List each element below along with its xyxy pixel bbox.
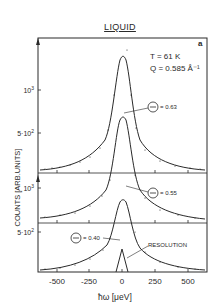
- y-axis-arrow-mid: [36, 175, 40, 182]
- x-tick-label--500: -500: [42, 277, 72, 286]
- curve-0.55: [40, 117, 205, 219]
- y-axis-title: COUNTS [ARB.UNITS]: [13, 133, 22, 243]
- y-axis-arrow-top: [36, 38, 40, 45]
- curve-0.40: [40, 200, 205, 270]
- leader-top: [124, 108, 148, 113]
- annotation-resolution: RESOLUTION: [148, 242, 187, 248]
- chart-canvas: [0, 0, 214, 307]
- leader-mid: [126, 186, 148, 192]
- panel-label: a: [198, 39, 202, 48]
- annotation-0.55: = 0.55: [160, 190, 177, 196]
- resolution-function: [116, 249, 128, 272]
- plot-frame: [38, 38, 207, 272]
- chart-title: LIQUID: [0, 22, 214, 32]
- annotation-0.63: = 0.63: [160, 104, 177, 110]
- momentum-label: Q = 0.585 Å⁻¹: [150, 64, 200, 73]
- curve-0.63: [40, 56, 205, 170]
- x-tick-label-500: 500: [173, 277, 203, 286]
- data-points: [44, 49, 200, 269]
- x-tick-label-250: 250: [140, 277, 170, 286]
- y-tick-label-1: 103: [4, 85, 34, 94]
- x-tick-label--250: -250: [74, 277, 104, 286]
- x-axis-title: ħω [μeV]: [98, 292, 132, 302]
- x-ticks: [57, 170, 188, 272]
- annotation-0.40: = 0.40: [83, 235, 100, 241]
- temperature-label: T = 61 K: [150, 52, 180, 61]
- leader-bottom: [103, 238, 120, 240]
- x-tick-label-0: 0: [107, 277, 137, 286]
